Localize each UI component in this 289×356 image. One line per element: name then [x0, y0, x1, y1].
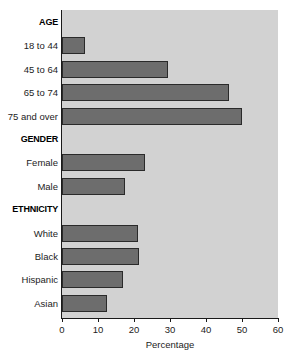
x-tick-label: 30	[155, 324, 185, 335]
x-tick-label: 50	[227, 324, 257, 335]
x-tick-mark	[278, 318, 279, 322]
bar	[62, 225, 138, 242]
category-label: Hispanic	[22, 271, 58, 288]
chart-bar-row: 75 and over	[0, 108, 289, 125]
bar	[62, 61, 168, 78]
bar	[62, 108, 242, 125]
bar	[62, 84, 229, 101]
chart-group-row: ETHNICITY	[0, 201, 289, 218]
bar	[62, 248, 139, 265]
category-label: 18 to 44	[24, 37, 58, 54]
bar	[62, 295, 107, 312]
chart-bar-row: Male	[0, 178, 289, 195]
bar	[62, 271, 123, 288]
x-tick-label: 20	[119, 324, 149, 335]
x-tick-mark	[98, 318, 99, 322]
chart-bar-row: Hispanic	[0, 271, 289, 288]
x-tick-mark	[242, 318, 243, 322]
bar	[62, 37, 85, 54]
category-label: Asian	[34, 295, 58, 312]
x-tick-mark	[134, 318, 135, 322]
group-header-label: ETHNICITY	[12, 201, 58, 218]
chart-bar-row: Black	[0, 248, 289, 265]
category-label: 75 and over	[8, 108, 58, 125]
x-tick-mark	[170, 318, 171, 322]
chart-bar-row: 45 to 64	[0, 61, 289, 78]
bar-chart: AGE18 to 4445 to 6465 to 7475 and overGE…	[0, 0, 289, 356]
x-tick-label: 10	[83, 324, 113, 335]
category-label: Female	[26, 154, 58, 171]
bar	[62, 154, 145, 171]
bar	[62, 178, 125, 195]
chart-bar-row: Asian	[0, 295, 289, 312]
chart-bar-row: White	[0, 225, 289, 242]
category-label: White	[34, 225, 58, 242]
category-label: Black	[35, 248, 58, 265]
category-label: 45 to 64	[24, 61, 58, 78]
category-label: 65 to 74	[24, 84, 58, 101]
group-header-label: GENDER	[21, 131, 58, 148]
x-tick-mark	[62, 318, 63, 322]
x-axis-title: Percentage	[62, 339, 278, 350]
chart-group-row: GENDER	[0, 131, 289, 148]
category-label: Male	[37, 178, 58, 195]
chart-bar-row: Female	[0, 154, 289, 171]
x-tick-label: 0	[47, 324, 77, 335]
group-header-label: AGE	[39, 14, 58, 31]
chart-bar-row: 65 to 74	[0, 84, 289, 101]
chart-group-row: AGE	[0, 14, 289, 31]
x-tick-label: 40	[191, 324, 221, 335]
chart-bar-row: 18 to 44	[0, 37, 289, 54]
x-tick-mark	[206, 318, 207, 322]
x-tick-label: 60	[263, 324, 289, 335]
